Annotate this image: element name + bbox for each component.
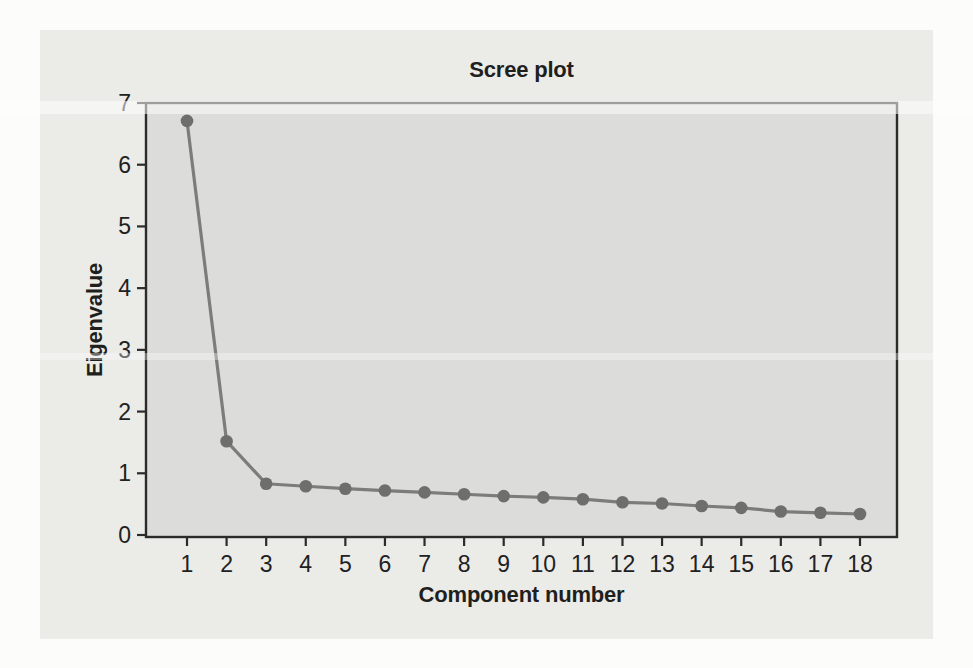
- x-tick-label: 4: [299, 551, 312, 577]
- x-tick-label: 9: [497, 551, 510, 577]
- y-axis-label: Eigenvalue: [82, 263, 108, 377]
- x-axis-label: Component number: [146, 583, 897, 607]
- data-point-12: [616, 496, 629, 509]
- data-point-1: [181, 115, 194, 128]
- data-point-7: [418, 486, 431, 499]
- y-tick-label: 1: [118, 460, 131, 486]
- x-tick-label: 14: [689, 551, 715, 577]
- y-tick-label: 3: [118, 337, 131, 363]
- x-tick-label: 6: [379, 551, 392, 577]
- scree-plot-chart: 01234567123456789101112131415161718: [0, 0, 973, 668]
- x-tick-label: 10: [530, 551, 556, 577]
- y-tick-label: 6: [118, 152, 131, 178]
- data-point-17: [814, 506, 827, 519]
- x-tick-label: 17: [808, 551, 834, 577]
- x-tick-label: 7: [418, 551, 431, 577]
- data-point-3: [260, 477, 273, 490]
- y-tick-label: 2: [118, 399, 131, 425]
- x-tick-label: 18: [847, 551, 873, 577]
- data-point-4: [299, 480, 312, 493]
- x-tick-label: 8: [458, 551, 471, 577]
- data-point-16: [775, 505, 788, 518]
- y-tick-label: 7: [118, 90, 131, 116]
- data-point-18: [854, 508, 867, 521]
- data-point-8: [458, 488, 471, 501]
- y-tick-label: 5: [118, 213, 131, 239]
- x-tick-label: 2: [220, 551, 233, 577]
- x-tick-label: 5: [339, 551, 352, 577]
- x-tick-label: 12: [610, 551, 636, 577]
- data-point-2: [220, 435, 233, 448]
- y-tick-label: 4: [118, 275, 131, 301]
- data-point-9: [497, 490, 510, 503]
- data-point-13: [656, 497, 669, 510]
- data-point-6: [379, 484, 392, 497]
- x-tick-label: 13: [649, 551, 675, 577]
- x-tick-label: 11: [571, 551, 595, 577]
- chart-title: Scree plot: [146, 58, 897, 82]
- x-tick-label: 1: [181, 551, 194, 577]
- x-tick-label: 15: [728, 551, 754, 577]
- x-tick-label: 3: [260, 551, 273, 577]
- data-point-11: [577, 493, 590, 506]
- x-tick-label: 16: [768, 551, 794, 577]
- data-point-10: [537, 491, 550, 504]
- data-point-15: [735, 502, 748, 515]
- y-tick-label: 0: [118, 522, 131, 548]
- data-point-5: [339, 482, 352, 495]
- data-point-14: [695, 500, 708, 513]
- plot-area: [146, 103, 897, 537]
- scanned-book-page: { "chart_data": { "type": "line", "title…: [0, 0, 973, 668]
